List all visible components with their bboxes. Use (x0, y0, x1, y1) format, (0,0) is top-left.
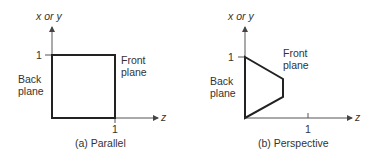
caption-perspective: (b) Perspective (258, 138, 329, 149)
y-tick-label: 1 (228, 52, 234, 63)
y-tick-label: 1 (36, 50, 42, 61)
z-tick-label: 1 (112, 124, 118, 135)
front-plane-label-line1: Front (121, 55, 146, 66)
perspective-panel (238, 27, 352, 118)
back-plane-label-line2: plane (18, 86, 44, 97)
parallel-volume (52, 55, 115, 118)
back-plane-label-line1: Back (210, 76, 233, 87)
back-plane-label-line1: Back (18, 74, 41, 85)
z-tick-label: 1 (305, 124, 311, 135)
front-plane-label-line2: plane (121, 67, 147, 78)
y-axis-label: x or y (36, 11, 62, 22)
perspective-frustum (245, 57, 283, 118)
y-axis-label: x or y (228, 11, 254, 22)
z-axis-label: z (355, 112, 360, 123)
back-plane-label-line2: plane (210, 88, 236, 99)
front-plane-label-line1: Front (283, 48, 308, 59)
diagram-canvas (0, 0, 375, 158)
caption-parallel: (a) Parallel (75, 138, 126, 149)
front-plane-label-line2: plane (283, 60, 309, 71)
z-axis-label: z (161, 112, 166, 123)
